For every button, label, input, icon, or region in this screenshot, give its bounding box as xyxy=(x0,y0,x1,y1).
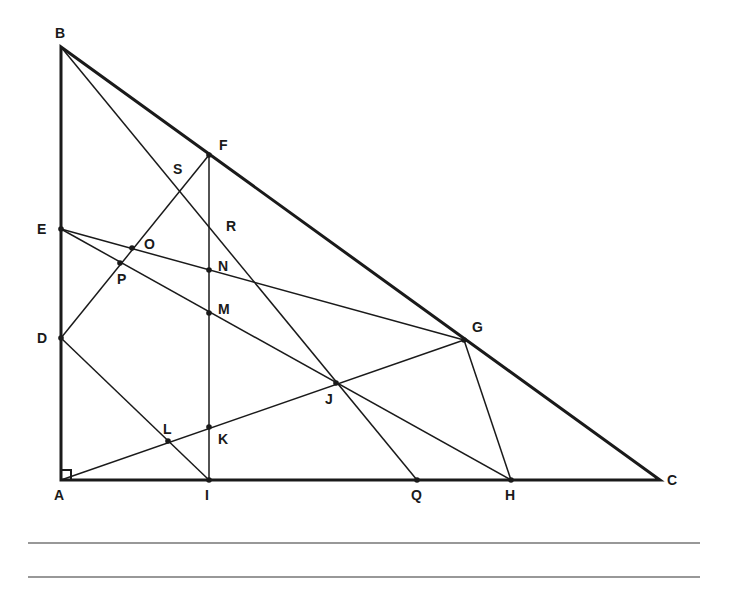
segment-gh xyxy=(464,340,511,480)
point-d-dot-icon xyxy=(58,335,64,341)
segment-fd xyxy=(61,155,209,338)
segment-di xyxy=(61,338,209,480)
triangle-abc xyxy=(61,47,660,480)
triangle-outline xyxy=(61,47,660,480)
point-g-dot-icon xyxy=(461,337,467,343)
label-r: R xyxy=(226,218,236,234)
label-i: I xyxy=(205,487,209,503)
point-i-dot-icon xyxy=(206,477,212,483)
label-s: S xyxy=(173,161,182,177)
label-d: D xyxy=(37,330,47,346)
label-c: C xyxy=(667,472,677,488)
label-f: F xyxy=(219,137,228,153)
point-n-dot-icon xyxy=(206,267,212,273)
label-n: N xyxy=(218,258,228,274)
label-l: L xyxy=(163,421,172,437)
label-o: O xyxy=(144,236,155,252)
point-p-dot-icon xyxy=(117,260,123,266)
label-q: Q xyxy=(411,487,422,503)
segment-ag xyxy=(61,340,464,480)
geometry-figure: ABCDEFGHIJKLMNOPQRS xyxy=(0,0,729,597)
label-a: A xyxy=(54,487,64,503)
point-o-dot-icon xyxy=(129,245,135,251)
label-p: P xyxy=(117,271,126,287)
point-markers xyxy=(58,152,514,483)
point-e-dot-icon xyxy=(58,226,64,232)
label-e: E xyxy=(37,221,46,237)
label-m: M xyxy=(218,301,230,317)
answer-lines xyxy=(28,543,700,577)
segment-eh xyxy=(61,229,511,480)
point-m-dot-icon xyxy=(206,310,212,316)
point-l-dot-icon xyxy=(165,438,171,444)
label-b: B xyxy=(55,25,65,41)
point-labels: ABCDEFGHIJKLMNOPQRS xyxy=(37,25,677,503)
point-k-dot-icon xyxy=(206,424,212,430)
construction-segments xyxy=(61,47,511,480)
segment-bq xyxy=(61,47,417,480)
label-g: G xyxy=(472,319,483,335)
label-h: H xyxy=(505,487,515,503)
point-f-dot-icon xyxy=(206,152,212,158)
label-k: K xyxy=(218,431,228,447)
point-j-dot-icon xyxy=(333,380,339,386)
point-h-dot-icon xyxy=(508,477,514,483)
label-j: J xyxy=(325,391,333,407)
point-q-dot-icon xyxy=(414,477,420,483)
